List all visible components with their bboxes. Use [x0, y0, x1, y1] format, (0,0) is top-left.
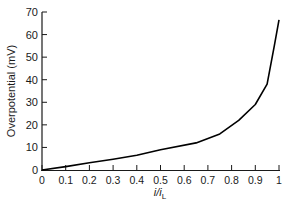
x-axis: 00.10.20.30.40.50.60.70.80.91	[39, 165, 282, 186]
x-tick-label: 0.8	[224, 174, 239, 186]
y-axis: 010203040506070	[26, 6, 47, 176]
x-tick-label: 0.5	[153, 174, 168, 186]
y-tick-label: 40	[26, 74, 38, 86]
y-tick-label: 0	[32, 164, 38, 176]
data-series-line	[42, 20, 279, 170]
y-tick-label: 70	[26, 6, 38, 18]
y-axis-label: Overpotential (mV)	[5, 45, 17, 137]
x-tick-label: 0.4	[129, 174, 144, 186]
y-tick-label: 20	[26, 119, 38, 131]
x-axis-label: i/iL	[154, 186, 167, 201]
x-tick-label: 0.6	[177, 174, 192, 186]
y-tick-label: 60	[26, 29, 38, 41]
x-tick-label: 0	[39, 174, 45, 186]
x-tick-label: 0.2	[82, 174, 97, 186]
y-tick-label: 50	[26, 51, 38, 63]
x-tick-label: 0.7	[201, 174, 216, 186]
x-axis-label-sub: L	[162, 192, 167, 201]
y-tick-label: 30	[26, 96, 38, 108]
overpotential-chart: 010203040506070 00.10.20.30.40.50.60.70.…	[0, 0, 288, 206]
x-tick-label: 0.9	[248, 174, 263, 186]
x-tick-label: 0.3	[106, 174, 121, 186]
y-tick-label: 10	[26, 141, 38, 153]
x-tick-label: 0.1	[58, 174, 73, 186]
x-tick-label: 1	[276, 174, 282, 186]
